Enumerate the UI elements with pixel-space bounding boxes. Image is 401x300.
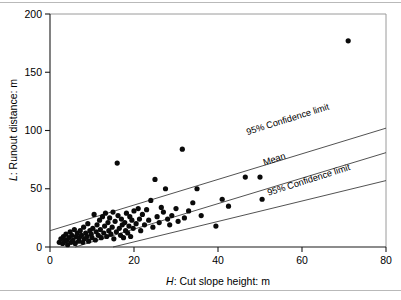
data-point (190, 200, 195, 205)
data-point (115, 161, 120, 166)
upper-confidence-limit-label: 95% Confidence limit (245, 101, 331, 137)
data-point (260, 197, 265, 202)
data-point (105, 220, 110, 225)
y-tick-label: 150 (24, 66, 42, 78)
data-point (199, 213, 204, 218)
data-point (159, 205, 164, 210)
data-points-group (57, 38, 351, 247)
y-axis-ticks: 050100150200 (24, 8, 50, 253)
data-point (169, 213, 174, 218)
data-point (94, 222, 99, 227)
data-point (167, 222, 172, 227)
data-point (110, 209, 115, 214)
data-point (131, 226, 136, 231)
x-tick-label: 20 (128, 254, 140, 266)
mean-label: Mean (262, 151, 287, 167)
data-point (128, 234, 133, 239)
data-point (161, 209, 166, 214)
scatter-plot: 050100150200 020406080 95% Confidence li… (0, 0, 401, 300)
data-point (110, 225, 115, 230)
figure-container: 050100150200 020406080 95% Confidence li… (0, 0, 401, 300)
y-tick-label: 50 (30, 182, 42, 194)
data-point (346, 38, 351, 43)
data-point (129, 218, 134, 223)
data-point (121, 235, 126, 240)
data-point (85, 221, 90, 226)
plot-frame (50, 14, 386, 247)
data-point (136, 206, 141, 211)
x-tick-label: 0 (47, 254, 53, 266)
data-point (155, 214, 160, 219)
data-point (176, 219, 181, 224)
data-point (113, 219, 118, 224)
data-point (220, 197, 225, 202)
data-point (146, 218, 151, 223)
data-point (194, 186, 199, 191)
data-point (111, 236, 116, 241)
data-point (81, 225, 86, 230)
data-point (257, 175, 262, 180)
x-tick-label: 80 (380, 254, 392, 266)
x-axis-ticks: 020406080 (47, 247, 392, 266)
data-point (142, 222, 147, 227)
data-point (213, 223, 218, 228)
data-point (144, 207, 149, 212)
data-point (173, 206, 178, 211)
data-point (243, 175, 248, 180)
data-point (122, 220, 127, 225)
figure-top-rule (0, 2, 401, 3)
data-point (182, 215, 187, 220)
data-point (107, 215, 112, 220)
data-point (150, 225, 155, 230)
fit-line (113, 181, 386, 247)
data-point (152, 177, 157, 182)
data-point (108, 232, 113, 237)
data-point (163, 186, 168, 191)
x-tick-label: 40 (212, 254, 224, 266)
line-annotations-group: 95% Confidence limitMean95% Confidence l… (245, 101, 352, 197)
data-point (226, 204, 231, 209)
y-tick-label: 0 (36, 241, 42, 253)
data-point (157, 220, 162, 225)
x-axis-title: H: Cut slope height: m (166, 275, 270, 287)
plot-axes (50, 14, 386, 247)
data-point (186, 208, 191, 213)
y-tick-label: 100 (24, 124, 42, 136)
data-point (148, 198, 153, 203)
data-point (138, 228, 143, 233)
data-point (103, 211, 108, 216)
figure-bottom-rule (0, 290, 401, 291)
y-tick-label: 200 (24, 8, 42, 20)
data-point (140, 212, 145, 217)
data-point (134, 221, 139, 226)
data-point (165, 216, 170, 221)
data-point (180, 147, 185, 152)
x-tick-label: 60 (296, 254, 308, 266)
data-point (137, 216, 142, 221)
y-axis-title: L: Runout distance: m (7, 79, 19, 181)
data-point (92, 212, 97, 217)
data-point (99, 235, 104, 240)
data-point (93, 237, 98, 242)
